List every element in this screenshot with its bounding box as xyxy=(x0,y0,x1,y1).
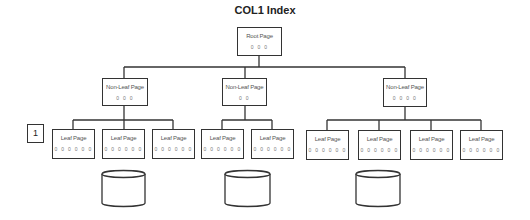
node-label: Non-Leaf Page xyxy=(103,84,147,90)
node-values: 0 0 0 0 0 0 xyxy=(252,146,293,152)
leaf-page-node: Leaf Page 0 0 0 0 0 0 xyxy=(410,130,453,160)
leaf-page-node: Leaf Page 0 0 0 0 0 0 xyxy=(201,129,244,159)
node-label: Root Page xyxy=(238,33,281,39)
node-values: 0 0 xyxy=(223,95,266,101)
node-label: Leaf Page xyxy=(53,135,94,141)
leaf-page-node: Leaf Page 0 0 0 0 0 0 xyxy=(460,130,503,160)
node-label: Leaf Page xyxy=(461,136,502,142)
leaf-page-node: Leaf Page 0 0 0 0 0 0 xyxy=(358,130,401,160)
non-leaf-page-node: Non-Leaf Page 0 0 0 xyxy=(102,78,148,106)
node-label: Leaf Page xyxy=(307,136,348,142)
node-values: 0 0 0 0 0 0 xyxy=(53,146,94,152)
leaf-page-node: Leaf Page 0 0 0 0 0 0 xyxy=(152,129,195,159)
non-leaf-page-node: Non-Leaf Page 0 0 xyxy=(222,78,267,106)
figure-number-label: 1 xyxy=(27,124,44,143)
diagram-title: COL1 Index xyxy=(0,4,530,16)
root-page-node: Root Page 0 0 0 xyxy=(237,27,282,56)
node-label: Leaf Page xyxy=(153,135,194,141)
node-values: 0 0 0 0 0 0 xyxy=(411,147,452,153)
database-cylinder-icon xyxy=(102,171,145,207)
node-label: Non-Leaf Page xyxy=(223,84,266,90)
node-label: Leaf Page xyxy=(411,136,452,142)
node-label: Leaf Page xyxy=(359,136,400,142)
node-values: 0 0 0 0 0 0 xyxy=(359,147,400,153)
node-values: 0 0 0 0 xyxy=(384,95,426,101)
leaf-page-node: Leaf Page 0 0 0 0 0 0 xyxy=(306,130,349,160)
node-label: Leaf Page xyxy=(202,135,243,141)
node-label: Leaf Page xyxy=(103,135,144,141)
node-values: 0 0 0 xyxy=(238,44,281,50)
database-cylinder-icon xyxy=(225,171,270,207)
node-values: 0 0 0 0 0 0 xyxy=(153,146,194,152)
leaf-page-node: Leaf Page 0 0 0 0 0 0 xyxy=(102,129,145,159)
leaf-page-node: Leaf Page 0 0 0 0 0 0 xyxy=(251,129,294,159)
node-values: 0 0 0 0 0 0 xyxy=(461,147,502,153)
node-values: 0 0 0 0 0 0 xyxy=(307,147,348,153)
node-values: 0 0 0 xyxy=(103,95,147,101)
node-label: Leaf Page xyxy=(252,135,293,141)
node-values: 0 0 0 0 0 0 xyxy=(202,146,243,152)
leaf-page-node: Leaf Page 0 0 0 0 0 0 xyxy=(52,129,95,159)
database-cylinder-icon xyxy=(356,171,400,207)
non-leaf-page-node: Non-Leaf Page 0 0 0 0 xyxy=(383,78,427,107)
node-values: 0 0 0 0 0 0 xyxy=(103,146,144,152)
node-label: Non-Leaf Page xyxy=(384,84,426,90)
